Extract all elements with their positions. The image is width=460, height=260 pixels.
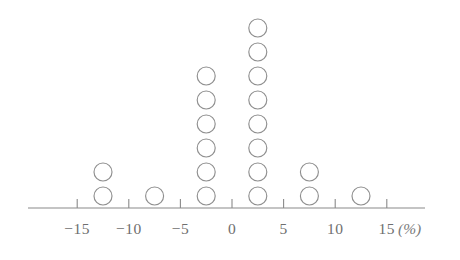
data-dot bbox=[249, 43, 267, 61]
x-axis-tick-label-0: −15 bbox=[64, 220, 90, 237]
data-dot bbox=[197, 67, 215, 85]
dot-stack-0 bbox=[94, 163, 112, 205]
data-dot bbox=[197, 115, 215, 133]
dot-stack-4 bbox=[300, 163, 318, 205]
x-axis-tick-label-6: 15 bbox=[379, 220, 396, 237]
x-axis-tick-label-3: 0 bbox=[228, 220, 236, 237]
x-axis-tick-marks bbox=[77, 199, 387, 208]
data-dot bbox=[94, 163, 112, 181]
data-dot bbox=[146, 187, 164, 205]
data-dot bbox=[249, 115, 267, 133]
dot-stack-1 bbox=[146, 187, 164, 205]
data-dot bbox=[249, 163, 267, 181]
dot-stack-5 bbox=[352, 187, 370, 205]
data-dot bbox=[94, 187, 112, 205]
x-axis-tick-label-2: −5 bbox=[172, 220, 190, 237]
data-dot bbox=[197, 187, 215, 205]
data-dot bbox=[249, 187, 267, 205]
data-dot bbox=[197, 163, 215, 181]
data-dots-layer bbox=[94, 19, 370, 205]
data-dot bbox=[197, 91, 215, 109]
data-dot bbox=[300, 163, 318, 181]
x-axis-unit-label: (%) bbox=[398, 220, 421, 238]
x-axis-tick-labels: −15−10−5051015 bbox=[64, 220, 395, 237]
dot-stack-3 bbox=[249, 19, 267, 205]
dot-stack-2 bbox=[197, 67, 215, 205]
x-axis-tick-label-4: 5 bbox=[279, 220, 287, 237]
data-dot bbox=[300, 187, 318, 205]
data-dot bbox=[249, 139, 267, 157]
data-dot bbox=[197, 139, 215, 157]
data-dot bbox=[249, 67, 267, 85]
x-axis-unit-text: (%) bbox=[398, 220, 421, 238]
x-axis-tick-label-5: 10 bbox=[327, 220, 344, 237]
data-dot bbox=[249, 19, 267, 37]
x-axis-tick-label-1: −10 bbox=[116, 220, 142, 237]
data-dot bbox=[352, 187, 370, 205]
dot-plot-canvas: −15−10−5051015 (%) bbox=[0, 0, 460, 260]
dot-plot-figure: −15−10−5051015 (%) bbox=[0, 0, 460, 260]
data-dot bbox=[249, 91, 267, 109]
